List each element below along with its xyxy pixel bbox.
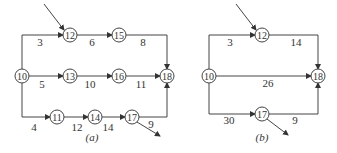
node-13: 13 (65, 71, 75, 82)
edge-label: 3 (37, 36, 43, 48)
edge-label: 12 (72, 121, 83, 133)
node-18: 18 (313, 71, 323, 82)
edge-label: 3 (227, 36, 233, 48)
edge-label: 14 (291, 36, 303, 48)
edge-label: 9 (148, 118, 154, 130)
edge-label: 9 (292, 114, 298, 126)
edge-label: 30 (224, 114, 236, 126)
network-diagrams: 10 12 15 18 13 16 11 14 17 10 12 18 17 3… (0, 0, 337, 153)
edge-label: 10 (85, 78, 97, 90)
node-17: 17 (127, 112, 137, 123)
node-12: 12 (257, 30, 267, 41)
edge-label: 4 (31, 121, 37, 133)
node-17: 17 (257, 109, 267, 120)
edge-label: 14 (103, 121, 115, 133)
node-10: 10 (17, 71, 27, 82)
node-12: 12 (65, 30, 75, 41)
caption-b: (b) (256, 131, 269, 144)
node-15: 15 (114, 30, 124, 41)
edge-label: 8 (140, 36, 146, 48)
edge-label: 6 (89, 36, 95, 48)
edge-label: 5 (39, 78, 45, 90)
caption-a: (a) (86, 131, 99, 144)
edge-label: 11 (136, 78, 147, 90)
node-18: 18 (162, 71, 172, 82)
node-10: 10 (204, 71, 214, 82)
node-11: 11 (52, 112, 62, 123)
node-16: 16 (114, 71, 124, 82)
node-14: 14 (90, 112, 100, 123)
edge-label: 26 (263, 77, 275, 89)
